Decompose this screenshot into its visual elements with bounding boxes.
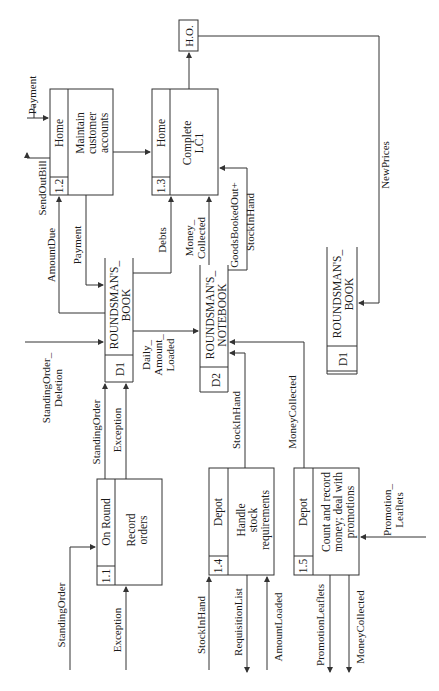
flow-debts: Debts [133,197,171,273]
process-id: 1.3 [155,179,167,194]
ho-label: H.O. [183,25,195,47]
flow-promotion-leaflets-in: Promotion_ Leaflets [361,484,426,537]
flow-label: StandingOrder [90,399,102,464]
flow-goods-booked-out: GoodsBookedOut+ StockInHand [220,168,256,270]
store-id: D1 [337,352,349,366]
flow-label: Exception [111,407,123,452]
flow-label-line2: Leaflets [393,492,405,527]
flow-label: PromotionLeaflets [314,584,326,666]
flow-label: Debts [156,227,168,253]
store-name-line2: NOTEBOOK [216,283,228,347]
process-1-5: 1.5 Depot Count and record money; deal w… [294,468,359,575]
flow-label-line2: Collected [195,216,207,259]
store-name-line1: ROUNDSMAN'S_ [331,250,343,339]
data-store-d2: D2 ROUNDSMAN'S_ NOTEBOOK [200,265,228,392]
flow-daily-amount-loaded: Daily_ Amount_ Loaded [133,331,198,376]
flow-label: SendOutBill [36,160,48,215]
flow-label: RequisitionList [232,588,244,656]
process-id: 1.1 [100,569,112,584]
flow-label-line1: Daily_ [140,340,152,370]
store-id: D2 [210,373,222,387]
flow-label-line2: Deletion [52,369,64,407]
flow-label: StandingOrder [55,582,67,647]
process-name-line3: accounts [98,112,110,153]
flow-label-line3: Loaded [164,338,176,371]
flow-label-line2: Amount_ [152,334,164,376]
data-flow-diagram: H.O. 1.2 Home Maintain customer accounts… [0,0,439,691]
process-1-3: 1.3 Home Complete LC1 [152,89,218,195]
process-name-line2: orders [137,515,149,544]
store-name-line1: ROUNDSMAN'S_ [108,261,120,350]
flow-payment-in: Payment [26,76,48,118]
process-id: 1.2 [53,179,65,194]
store-name-line2: BOOK [343,277,355,310]
flow-label: Payment [26,76,38,115]
store-name-line2: BOOK [120,288,132,321]
flow-stock-in-hand-in: StockInHand [195,577,209,670]
process-id: 1.4 [212,559,224,574]
flow-standing-order-to-book: StandingOrder [90,384,105,479]
process-name-line1: Record [125,513,137,546]
flow-requisition-list: RequisitionList [232,575,247,672]
flow-label-line1: Money_ [183,219,195,256]
flow-amount-loaded: AmountLoaded [267,577,284,670]
process-name-line2: LC1 [193,133,205,154]
process-1-1: 1.1 On Round Record orders [97,479,162,585]
data-store-d1-right: D1 ROUNDSMAN'S_ BOOK [327,247,357,374]
flow-label-line1: StandingOrder_ [40,352,52,423]
process-name-line3: requirements [259,489,272,550]
process-name-line1: Handle [235,503,247,536]
process-id: 1.5 [297,559,309,574]
process-location: Home [155,119,167,147]
store-name-line1: ROUNDSMAN'S_ [204,271,216,360]
flow-money-collected-out: MoneyCollected [349,575,366,672]
process-1-2: 1.2 Home Maintain customer accounts [50,89,113,195]
process-location: Depot [297,497,310,526]
process-name-line1: Count and record [320,472,332,552]
flow-exception-in: Exception [111,587,126,670]
process-name-line2: customer [86,112,98,154]
external-entity-ho: H.O. [179,20,198,51]
process-name-line1: Maintain [74,112,86,154]
process-location: Home [53,119,65,147]
flow-standing-order-in: StandingOrder [55,547,95,670]
flow-exception-to-book: Exception [111,384,126,479]
flow-label: StockInHand [195,595,207,654]
flow-label: StockInHand [230,390,242,449]
flow-new-prices: NewPrices [198,36,391,303]
flow-label-line2: StockInHand [244,192,256,251]
flow-label: Exception [111,607,123,652]
process-name-line3: promotions [344,485,357,538]
flow-label: AmountLoaded [272,592,284,662]
flow-label: Payment [71,226,83,265]
flow-stock-in-hand-to-notebook: StockInHand [230,353,245,468]
flow-promotion-leaflets-out: PromotionLeaflets [314,575,330,672]
flow-label: MoneyCollected [354,590,366,664]
flow-label: MoneyCollected [286,375,298,449]
process-location: Depot [212,497,225,526]
process-name-line2: stock [247,508,259,533]
flow-payment-to-book: Payment [71,195,103,285]
flow-label-line1: GoodsBookedOut+ [228,182,240,268]
flow-send-out-bill: SendOutBill [27,153,50,216]
flow-label-line1: Promotion_ [381,484,393,536]
process-location: On Round [100,498,112,546]
store-id: D1 [114,362,126,376]
flow-label: AmountDue [45,228,57,283]
data-store-d1-left: D1 ROUNDSMAN'S_ BOOK [105,258,133,382]
flow-label: NewPrices [379,141,391,189]
flow-money-collected-to-lc1: Money_ Collected [183,197,209,265]
process-1-4: 1.4 Depot Handle stock requirements [209,468,274,575]
